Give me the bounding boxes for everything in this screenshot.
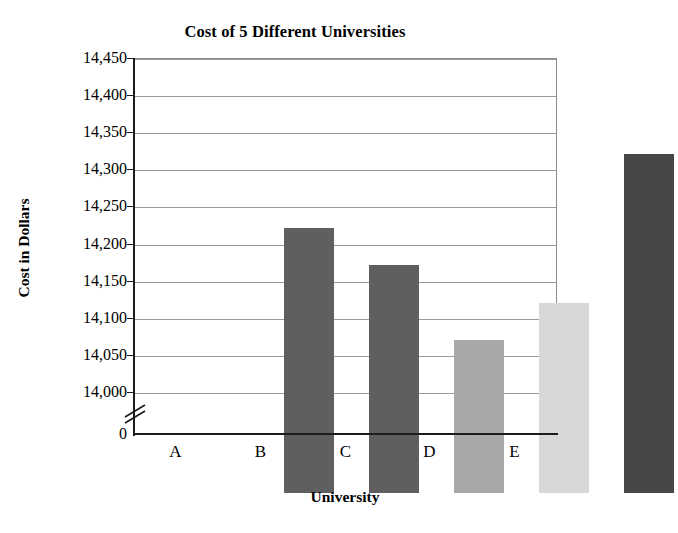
y-axis-tick-label: 14,250 (31, 198, 127, 214)
y-axis-tick-label: 0 (31, 426, 127, 442)
y-tick-mark (127, 392, 134, 393)
plot-area (133, 58, 557, 434)
axis-break-icon (122, 398, 148, 428)
y-axis-tick-label: 14,000 (31, 384, 127, 400)
y-tick-mark (127, 58, 134, 59)
x-axis-tick-label: C (303, 440, 388, 464)
x-axis-title: University (133, 488, 557, 506)
y-axis-tick-label: 14,200 (31, 236, 127, 252)
x-axis-tick-label: D (387, 440, 472, 464)
y-axis-tick-label: 14,350 (31, 124, 127, 140)
y-tick-mark (127, 244, 134, 245)
gridline (134, 96, 556, 97)
bar (624, 154, 674, 493)
y-axis-tick-label: 14,450 (31, 50, 127, 66)
x-axis-tick-labels: ABCDE (133, 440, 557, 468)
chart-title: Cost of 5 Different Universities (0, 22, 590, 42)
bar (454, 340, 504, 493)
y-axis-tick-label: 14,150 (31, 273, 127, 289)
y-axis-tick-label: 14,300 (31, 161, 127, 177)
x-axis-tick-label: A (133, 440, 218, 464)
bars-group (267, 117, 678, 493)
y-tick-mark (127, 169, 134, 170)
y-axis-tick-labels: 014,00014,05014,10014,15014,20014,25014,… (24, 58, 127, 434)
y-tick-mark (127, 206, 134, 207)
y-axis-tick-label: 14,400 (31, 87, 127, 103)
y-axis-tick-label: 14,100 (31, 310, 127, 326)
y-tick-mark (127, 132, 134, 133)
y-axis-tick-label: 14,050 (31, 347, 127, 363)
x-axis-tick-label: E (472, 440, 557, 464)
y-tick-mark (127, 355, 134, 356)
y-tick-mark (127, 95, 134, 96)
y-tick-mark (127, 318, 134, 319)
x-axis-tick-label: B (218, 440, 303, 464)
x-axis-line (133, 433, 558, 435)
y-tick-mark (127, 281, 134, 282)
gridline (134, 59, 556, 60)
